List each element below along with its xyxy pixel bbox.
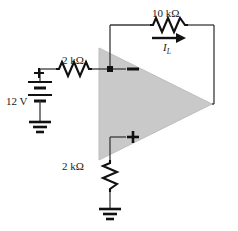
circuit-schematic-svg [0, 0, 238, 231]
load-current-label: IL [163, 42, 171, 56]
load-current-subscript: L [167, 47, 171, 56]
opamp-triangle [99, 48, 212, 160]
inverting-input-node-dot [107, 66, 113, 72]
circuit-diagram: 10 kΩ IL 2 kΩ 12 V 2 kΩ [0, 0, 238, 231]
source-ground-symbol [29, 122, 51, 132]
input-resistor-label: 2 kΩ [62, 55, 84, 66]
ground-resistor-symbol [103, 160, 117, 192]
battery-symbol [28, 82, 52, 122]
ground-resistor-label: 2 kΩ [62, 161, 84, 172]
source-voltage-label: 12 V [6, 96, 28, 107]
feedback-resistor-symbol [150, 18, 188, 32]
feedback-resistor-label: 10 kΩ [152, 8, 179, 19]
resistor-ground-symbol [99, 209, 121, 219]
